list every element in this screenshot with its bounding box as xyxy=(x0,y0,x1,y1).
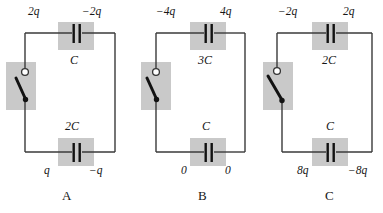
panel-letter-a: A xyxy=(62,189,71,202)
top-capacitor-name-a: C xyxy=(70,54,78,66)
bottom-capacitor-right-charge-a: −q xyxy=(89,165,103,177)
top-capacitor-right-charge-b: 4q xyxy=(220,6,232,18)
circuit-b-graphics xyxy=(128,0,256,213)
panel-letter-b: B xyxy=(198,189,207,202)
bottom-capacitor-right-charge-c: −8q xyxy=(348,165,367,177)
switch-terminal-closed-b xyxy=(154,97,159,102)
bottom-capacitor-name-b: C xyxy=(202,120,210,132)
wire-loop-a xyxy=(25,33,115,152)
bottom-capacitor-name-a: 2C xyxy=(65,120,79,132)
circuit-c-graphics xyxy=(255,0,383,213)
top-capacitor-highlight-a xyxy=(58,22,94,50)
circuit-panel-c: −2q 2q 2C C 8q −8q C xyxy=(255,0,383,213)
top-capacitor-left-charge-c: −2q xyxy=(278,6,297,18)
figure-canvas: 2q −2q C 2C q −q A xyxy=(0,0,383,213)
circuit-a-graphics xyxy=(0,0,128,213)
top-capacitor-name-c: 2C xyxy=(322,54,336,66)
bottom-capacitor-left-charge-c: 8q xyxy=(297,165,309,177)
top-capacitor-left-charge-b: −4q xyxy=(156,6,175,18)
circuit-panel-a: 2q −2q C 2C q −q A xyxy=(0,0,128,213)
switch-terminal-closed-c xyxy=(279,98,284,103)
switch-terminal-open-a xyxy=(22,69,29,76)
bottom-capacitor-left-charge-a: q xyxy=(44,165,50,177)
switch-terminal-closed-a xyxy=(23,97,28,102)
top-capacitor-name-b: 3C xyxy=(198,54,212,66)
bottom-capacitor-name-c: C xyxy=(326,120,334,132)
bottom-capacitor-right-charge-b: 0 xyxy=(225,165,231,177)
switch-terminal-open-c xyxy=(274,68,281,75)
switch-terminal-open-b xyxy=(153,69,160,76)
panel-letter-c: C xyxy=(325,189,334,202)
top-capacitor-left-charge-a: 2q xyxy=(28,6,40,18)
top-capacitor-right-charge-a: −2q xyxy=(82,6,101,18)
top-capacitor-highlight-b xyxy=(190,22,226,50)
circuit-panel-b: −4q 4q 3C C 0 0 B xyxy=(128,0,256,213)
top-capacitor-highlight-c xyxy=(312,22,348,50)
bottom-capacitor-left-charge-b: 0 xyxy=(181,165,187,177)
top-capacitor-right-charge-c: 2q xyxy=(343,6,355,18)
